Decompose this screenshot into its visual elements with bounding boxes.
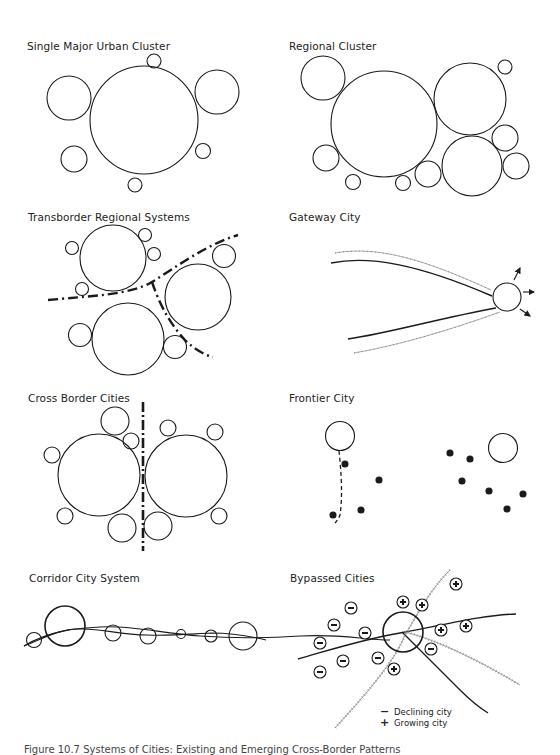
declining-city-marker	[345, 602, 357, 614]
diagram-single-major-urban-cluster	[47, 54, 239, 192]
declining-city-marker	[359, 627, 371, 639]
legend-label-growing: Growing city	[394, 718, 447, 728]
bypassed-city-markers	[314, 578, 472, 678]
legend-item-growing: + Growing city	[380, 717, 452, 728]
figure-caption: Figure 10.7 Systems of Cities: Existing …	[24, 744, 401, 755]
declining-city-marker	[328, 619, 340, 631]
growing-city-marker	[450, 578, 462, 590]
diagram-gateway-city	[331, 251, 534, 353]
declining-city-marker	[372, 652, 384, 664]
legend: − Declining city + Growing city	[380, 706, 452, 728]
declining-city-marker	[314, 666, 326, 678]
growing-city-marker	[397, 596, 409, 608]
diagram-transborder-regional-systems	[48, 225, 238, 375]
legend-label-declining: Declining city	[394, 707, 452, 717]
declining-city-marker	[314, 637, 326, 649]
plus-icon: +	[380, 716, 394, 729]
diagram-bypassed-cities	[298, 570, 520, 728]
growing-city-marker	[435, 624, 447, 636]
diagram-regional-cluster	[301, 56, 529, 196]
growing-city-marker	[388, 663, 400, 675]
growing-city-marker	[416, 599, 428, 611]
diagram-frontier-city	[326, 422, 527, 524]
declining-city-marker	[337, 655, 349, 667]
growing-city-marker	[460, 620, 472, 632]
declining-city-marker	[425, 643, 437, 655]
diagram-cross-border-cities	[44, 402, 227, 551]
